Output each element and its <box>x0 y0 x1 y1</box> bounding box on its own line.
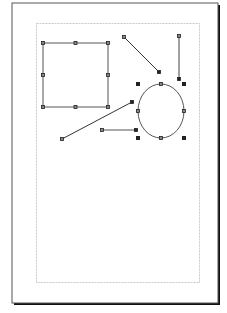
drawing-surface[interactable] <box>0 0 227 313</box>
point-handle[interactable] <box>131 101 134 104</box>
point-handle[interactable] <box>61 138 64 141</box>
point-handle[interactable] <box>74 42 77 45</box>
point-handle[interactable] <box>160 83 163 86</box>
point-handle[interactable] <box>183 110 186 113</box>
point-handle[interactable] <box>158 71 161 74</box>
point-handle[interactable] <box>137 110 140 113</box>
selection-handle[interactable] <box>136 136 140 140</box>
selection-handle[interactable] <box>136 82 140 86</box>
point-handle[interactable] <box>74 106 77 109</box>
point-handle[interactable] <box>107 42 110 45</box>
point-handle[interactable] <box>123 36 126 39</box>
point-handle[interactable] <box>135 129 138 132</box>
point-handle[interactable] <box>178 35 181 38</box>
point-handle[interactable] <box>107 74 110 77</box>
point-handle[interactable] <box>42 42 45 45</box>
point-handle[interactable] <box>107 106 110 109</box>
selection-handle[interactable] <box>182 82 186 86</box>
point-handle[interactable] <box>42 106 45 109</box>
point-handle[interactable] <box>160 137 163 140</box>
point-handle[interactable] <box>178 78 181 81</box>
point-handle[interactable] <box>101 129 104 132</box>
point-handle[interactable] <box>42 74 45 77</box>
drawing-canvas[interactable] <box>0 0 227 313</box>
selection-handle[interactable] <box>182 136 186 140</box>
